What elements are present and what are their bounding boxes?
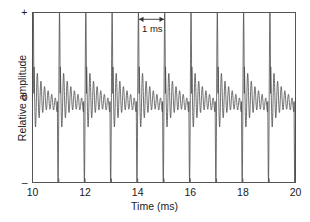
y-tick-label-minus: – [14,176,28,188]
waveform-figure: 101214161820 +0– 1 ms Time (ms) Relative… [0,0,309,222]
x-tick-label-18: 18 [228,186,258,198]
period-annotation-arrow [139,17,164,22]
axis-ticks [59,179,269,183]
y-tick-label-plus: + [14,6,28,18]
annotation-label-1ms: 1 ms [142,23,163,34]
x-tick-label-12: 12 [70,186,100,198]
x-tick-label-14: 14 [123,186,153,198]
x-tick-label-20: 20 [281,186,310,198]
waveform-trace [33,13,296,182]
x-axis-title: Time (ms) [0,200,309,212]
x-tick-label-16: 16 [175,186,205,198]
y-axis-title: Relative amplitude [16,28,28,168]
